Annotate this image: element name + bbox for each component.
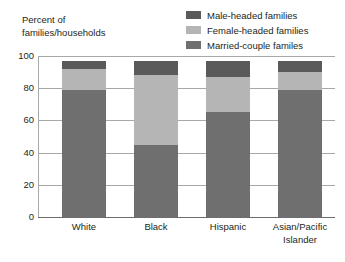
bar-stack-hispanic [206,61,250,217]
y-axis-tick-labels: 100 80 60 40 20 0 [10,56,34,217]
stacked-bar-chart: Male-headed families Female-headed famil… [0,0,345,262]
y-tick-40: 40 [23,148,34,158]
legend-label-male-headed: Male-headed families [207,10,297,21]
bar-segment-asian-pacific-islander-male-headed [278,61,322,72]
plot-area [38,56,335,217]
chart-legend: Male-headed families Female-headed famil… [186,8,341,53]
gridline-100 [38,56,335,57]
legend-swatch-married-couple [186,41,201,49]
y-axis-title-line1: Percent of [22,14,105,27]
legend-swatch-female-headed [186,26,201,34]
x-axis-category-labels: White Black Hispanic Asian/Pacific Islan… [38,221,335,255]
bar-stack-white [62,61,106,217]
y-tick-60: 60 [23,115,34,125]
x-label-asian-pacific-islander-line1: Asian/Pacific [254,221,345,234]
x-label-asian-pacific-islander: Asian/Pacific Islander [254,221,345,246]
y-tick-100: 100 [18,51,34,61]
bar-segment-white-female-headed [62,69,106,90]
bar-segment-asian-pacific-islander-female-headed [278,72,322,90]
legend-item-male-headed: Male-headed families [186,8,341,22]
y-axis-title: Percent of families/households [22,14,105,39]
legend-swatch-male-headed [186,11,201,19]
legend-item-female-headed: Female-headed families [186,23,341,37]
bar-segment-black-married-couple [134,145,178,217]
bar-segment-black-female-headed [134,75,178,144]
y-tick-0: 0 [29,212,34,222]
bar-stack-asian-pacific-islander [278,61,322,217]
y-axis-title-line2: families/households [22,27,105,40]
y-tick-20: 20 [23,180,34,190]
legend-label-female-headed: Female-headed families [207,25,308,36]
bar-segment-asian-pacific-islander-married-couple [278,90,322,217]
bar-segment-hispanic-married-couple [206,112,250,217]
bar-segment-hispanic-female-headed [206,77,250,112]
x-axis-line [38,217,335,218]
x-label-asian-pacific-islander-line2: Islander [254,234,345,247]
y-axis-line [38,56,39,217]
bar-stack-black [134,61,178,217]
legend-label-married-couple: Married-couple familes [207,40,303,51]
bar-segment-hispanic-male-headed [206,61,250,77]
bar-segment-white-male-headed [62,61,106,69]
y-tick-80: 80 [23,83,34,93]
bar-segment-black-male-headed [134,61,178,75]
legend-item-married-couple: Married-couple familes [186,38,341,52]
bar-segment-white-married-couple [62,90,106,217]
